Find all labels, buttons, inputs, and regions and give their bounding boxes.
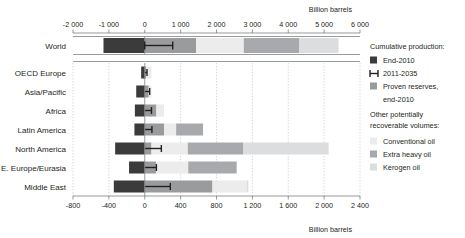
top-axis-label: Billion barrels: [309, 5, 353, 14]
kerogen-oil-bar: [247, 181, 249, 193]
category-label-africa: Africa: [46, 107, 67, 116]
world-kerogen-bar: [299, 38, 338, 53]
world-tick-label: 3 000: [243, 20, 261, 29]
region-tick-label: 400: [175, 201, 187, 210]
region-tick-label: 1 600: [279, 201, 297, 210]
legend-swatch-icon: [370, 151, 377, 158]
legend-group-2-title-line2: recoverable volumes:: [370, 121, 439, 130]
conventional-oil-bar: [156, 162, 188, 174]
end2010-bar: [134, 124, 144, 136]
legend-swatch-icon: [370, 83, 377, 90]
category-label-north-america: North America: [15, 145, 66, 154]
end2010-bar: [114, 181, 145, 193]
category-label-latin-america: Latin America: [18, 126, 67, 135]
legend-item-extra-heavy-oil: Extra heavy oil: [383, 150, 431, 159]
category-label-e-europe-eurasia: E. Europe/Eurasia: [1, 164, 66, 173]
world-tick-label: -2 000: [63, 20, 83, 29]
top-axis-label-text: Billion barrels: [309, 5, 353, 14]
extra-heavy-oil-bar: [188, 143, 244, 155]
legend-item-2011-2035: 2011-2035: [383, 69, 417, 78]
legend-item-conventional-oil: Conventional oil: [383, 137, 435, 146]
end2010-bar: [136, 86, 145, 98]
legend-swatch-icon: [370, 57, 377, 64]
legend-item-proven-reserves-line2: end-2010: [383, 95, 414, 104]
end2010-bar: [129, 162, 145, 174]
world-conventional-bar: [196, 38, 244, 53]
extra-heavy-oil-bar: [176, 124, 203, 136]
end2010-bar: [135, 105, 145, 117]
legend-swatch-icon: [370, 138, 377, 145]
conventional-oil-bar: [156, 105, 164, 117]
legend-item-proven-reserves: Proven reserves,: [383, 82, 438, 91]
region-tick-label: 1 200: [243, 201, 261, 210]
world-end2010-bar: [103, 38, 144, 53]
region-tick-label: -400: [102, 201, 116, 210]
world-tick-label: 1 000: [172, 20, 190, 29]
world-extra-heavy-bar: [244, 38, 299, 53]
region-tick-label: 0: [143, 201, 147, 210]
region-tick-label: 2 000: [315, 201, 333, 210]
category-label-world: World: [45, 42, 66, 51]
extra-heavy-oil-bar: [188, 162, 236, 174]
world-tick-label: 2 000: [208, 20, 226, 29]
category-label-asia-pacific: Asia/Pacific: [25, 88, 66, 97]
bottom-axis-label: Billion barrels: [309, 225, 353, 234]
world-tick-label: 0: [143, 20, 147, 29]
conventional-oil-bar: [212, 181, 246, 193]
world-tick-label: 4 000: [279, 20, 297, 29]
bottom-axis-label-text: Billion barrels: [309, 225, 353, 234]
region-tick-label: 2 400: [351, 201, 369, 210]
legend-group-1-title: Cumulative production:: [370, 42, 445, 51]
region-tick-label: -800: [66, 201, 80, 210]
conventional-oil-bar: [164, 124, 176, 136]
world-tick-label: 5 000: [315, 20, 333, 29]
legend-swatch-icon: [370, 164, 377, 171]
category-label-middle-east: Middle East: [24, 183, 67, 192]
region-tick-label: 800: [211, 201, 223, 210]
legend-group-2-title-line1: Other potentially: [370, 110, 423, 119]
legend-item-end-2010: End-2010: [383, 56, 415, 65]
world-tick-label: -1 000: [99, 20, 119, 29]
kerogen-oil-bar: [243, 143, 328, 155]
world-tick-label: 6 000: [351, 20, 369, 29]
end2010-bar: [141, 67, 145, 79]
world-bar-group: [103, 37, 338, 54]
category-label-oecd-europe: OECD Europe: [15, 69, 67, 78]
legend-item-kerogen-oil: Kerogen oil: [383, 163, 420, 172]
oil-resources-bar-chart: Billion barrels -2 000-1 00001 0002 0003…: [0, 0, 465, 238]
end2010-bar: [115, 143, 145, 155]
